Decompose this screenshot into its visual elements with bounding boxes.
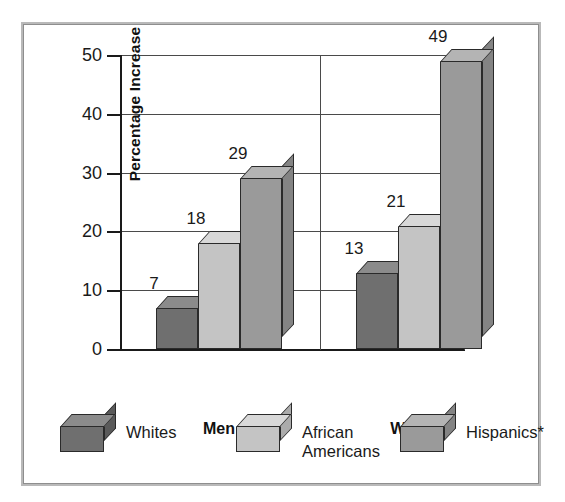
bar-front-face [440,61,482,349]
gridline-50 [120,55,465,56]
bar-value-label: 21 [376,193,416,210]
gridline-40 [120,114,465,115]
legend-swatch-icon [400,426,444,452]
y-tick-50 [107,55,120,57]
bar-women-0 [356,273,398,349]
bar-women-2 [440,61,482,349]
bar-value-label: 18 [176,210,216,227]
y-tick-40 [107,114,120,116]
legend-swatch-icon [236,426,280,452]
y-tick-30 [107,173,120,175]
bar-front-face [198,243,240,349]
legend-swatch-front-face [400,426,444,452]
bar-value-label: 13 [334,240,374,257]
bar-value-label: 7 [134,275,174,292]
y-tick-label-40: 40 [68,105,102,123]
group-divider-line [320,55,321,350]
y-tick-label-50: 50 [68,46,102,64]
bar-value-label: 49 [418,28,458,45]
legend-label-1: African Americans [302,423,380,462]
chart-legend: WhitesAfrican AmericansHispanics* [60,412,480,470]
legend-swatch-front-face [60,426,104,452]
y-axis-title: Percentage Increase [126,0,144,214]
bar-women-1 [398,226,440,349]
y-tick-label-0: 0 [68,340,102,358]
bar-front-face [398,226,440,349]
legend-swatch-front-face [236,426,280,452]
y-tick-label-20: 20 [68,222,102,240]
plot-area: 50403020100 71829132149 MenWomen Percent… [120,55,465,349]
bar-front-face [156,308,198,349]
bar-men-0 [156,308,198,349]
bar-front-face [356,273,398,349]
y-tick-label-30: 30 [68,164,102,182]
y-axis-line [120,55,122,350]
y-tick-label-10: 10 [68,281,102,299]
bar-men-2 [240,178,282,349]
bar-side-face [482,36,494,337]
bar-value-label: 29 [218,145,258,162]
bar-side-face [282,154,294,337]
x-axis-line [120,349,465,351]
bar-men-1 [198,243,240,349]
legend-swatch-icon [60,426,104,452]
legend-label-2: Hispanics* [466,423,544,442]
bar-front-face [240,178,282,349]
legend-label-0: Whites [126,423,176,442]
chart-figure: 50403020100 71829132149 MenWomen Percent… [0,0,565,502]
y-tick-10 [107,290,120,292]
y-tick-0 [107,349,120,351]
y-tick-20 [107,231,120,233]
